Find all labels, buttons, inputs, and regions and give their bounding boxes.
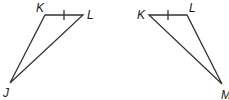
label-l-right: L [189,1,196,15]
label-k-right: K [137,8,146,22]
label-m: M [221,88,229,100]
label-l-left: L [87,8,94,22]
triangle-jkl-shape [10,15,83,83]
label-k-left: K [36,1,45,15]
congruence-diagram: K L J K L M [0,0,229,100]
triangle-klm-shape [149,15,222,84]
label-j: J [2,86,10,100]
triangle-jkl [10,10,83,83]
triangle-klm [149,10,222,84]
